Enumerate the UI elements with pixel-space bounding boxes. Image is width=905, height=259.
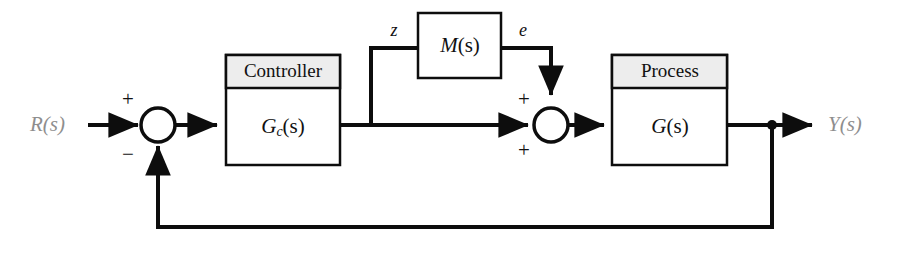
controller-header-label: Controller (244, 60, 323, 81)
error-junction-minus-sign: − (122, 142, 134, 166)
signal-label-e: e (519, 20, 527, 40)
wire-z-branch (371, 48, 418, 127)
error-junction-circle (141, 108, 175, 142)
process-tf-tail: (s) (667, 114, 689, 138)
block-diagram-canvas: Controller Gc(s) M(s) Process G(s) + − (0, 0, 905, 259)
process-tf-main: G (651, 114, 666, 138)
process-transfer-function: G(s) (651, 114, 688, 138)
process-header-label: Process (641, 60, 699, 81)
disturbance-junction-plus-sign-bottom: + (518, 138, 530, 162)
controller-tf-tail: (s) (283, 114, 305, 138)
controller-transfer-function: Gc(s) (261, 114, 305, 139)
measurement-tf-main: M (439, 33, 459, 57)
block-measurement[interactable]: M(s) (418, 13, 501, 78)
disturbance-junction-circle (534, 108, 568, 142)
block-controller[interactable]: Controller Gc(s) (226, 55, 340, 165)
measurement-tf-tail: (s) (458, 33, 480, 57)
reference-input-label: R(s) (29, 112, 65, 136)
block-diagram-svg: Controller Gc(s) M(s) Process G(s) + − (0, 0, 905, 259)
controller-tf-main: G (261, 114, 276, 138)
measurement-transfer-function: M(s) (439, 33, 480, 57)
signal-label-z: z (389, 20, 397, 40)
system-output-label: Y(s) (828, 112, 862, 136)
error-junction-plus-sign: + (122, 87, 134, 111)
output-takeoff-node (767, 120, 777, 130)
disturbance-junction-plus-sign-top: + (518, 87, 530, 111)
block-process[interactable]: Process G(s) (612, 55, 727, 165)
